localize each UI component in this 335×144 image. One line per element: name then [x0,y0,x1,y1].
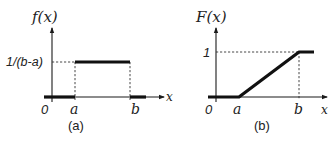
panel-a-pdf: f(x) 1/(b-a) 0 a b x (a) [6,8,173,133]
x-axis-label: x [166,90,173,104]
figure: f(x) 1/(b-a) 0 a b x (a) F(x) 1 0 a b x … [0,0,335,144]
x-axis-label: x [321,103,328,117]
panel-b-cdf: F(x) 1 0 a b x (b) [195,8,328,133]
a-label: a [70,101,78,117]
origin-label: 0 [205,102,213,117]
a-label: a [233,101,241,117]
level-label: 1/(b-a) [6,55,43,69]
y-axis-label: f(x) [31,8,58,26]
origin-label: 0 [41,102,49,117]
cdf-curve [208,52,314,97]
panel-caption: (b) [254,118,270,133]
b-label: b [294,101,303,117]
y-axis-label: F(x) [195,8,227,26]
level-label: 1 [203,45,210,60]
b-label: b [131,101,140,117]
panel-caption: (a) [68,118,84,133]
